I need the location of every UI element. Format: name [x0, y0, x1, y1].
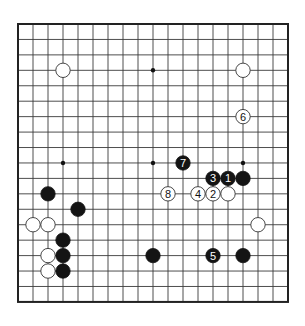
move-number-label: 5 — [210, 250, 216, 262]
black-stone-disc — [236, 171, 250, 185]
white-stone-disc — [41, 264, 55, 278]
black-stone-disc — [146, 248, 160, 262]
go-board-svg[interactable]: 67318425 — [0, 0, 305, 326]
white-stone-move-4[interactable]: 4 — [191, 187, 205, 201]
white-stone[interactable] — [41, 248, 55, 262]
black-stone[interactable] — [236, 171, 250, 185]
black-stone[interactable] — [41, 187, 55, 201]
black-stone[interactable] — [56, 248, 70, 262]
black-stone-move-3[interactable]: 3 — [206, 171, 220, 185]
go-board[interactable]: 67318425 — [0, 0, 305, 326]
star-point — [151, 161, 155, 165]
black-stone[interactable] — [56, 264, 70, 278]
black-stone-disc — [41, 187, 55, 201]
white-stone[interactable] — [251, 218, 265, 232]
white-stone-disc — [41, 248, 55, 262]
black-stone-disc — [236, 248, 250, 262]
white-stone[interactable] — [26, 218, 40, 232]
white-stone-move-2[interactable]: 2 — [206, 187, 220, 201]
move-number-label: 7 — [180, 157, 186, 169]
white-stone[interactable] — [221, 187, 235, 201]
black-stone-disc — [71, 202, 85, 216]
black-stone[interactable] — [146, 248, 160, 262]
white-stone[interactable] — [41, 218, 55, 232]
black-stone[interactable] — [56, 233, 70, 247]
black-stone-disc — [56, 233, 70, 247]
white-stone-disc — [221, 187, 235, 201]
move-number-label: 4 — [195, 188, 201, 200]
move-number-label: 1 — [225, 172, 231, 184]
black-stone[interactable] — [236, 248, 250, 262]
white-stone-disc — [236, 63, 250, 77]
star-point — [241, 161, 245, 165]
black-stone-move-5[interactable]: 5 — [206, 248, 220, 262]
star-point — [151, 68, 155, 72]
white-stone-disc — [251, 218, 265, 232]
white-stone[interactable] — [41, 264, 55, 278]
white-stone-disc — [41, 218, 55, 232]
star-point — [61, 161, 65, 165]
move-number-label: 6 — [240, 111, 246, 123]
white-stone-move-6[interactable]: 6 — [236, 109, 250, 123]
black-stone-move-1[interactable]: 1 — [221, 171, 235, 185]
black-stone-move-7[interactable]: 7 — [176, 156, 190, 170]
stones-layer: 67318425 — [26, 63, 265, 278]
move-number-label: 8 — [165, 188, 171, 200]
move-number-label: 3 — [210, 172, 216, 184]
white-stone-disc — [26, 218, 40, 232]
white-stone[interactable] — [236, 63, 250, 77]
white-stone[interactable] — [56, 63, 70, 77]
white-stone-move-8[interactable]: 8 — [161, 187, 175, 201]
black-stone[interactable] — [71, 202, 85, 216]
white-stone-disc — [56, 63, 70, 77]
move-number-label: 2 — [210, 188, 216, 200]
black-stone-disc — [56, 264, 70, 278]
black-stone-disc — [56, 248, 70, 262]
